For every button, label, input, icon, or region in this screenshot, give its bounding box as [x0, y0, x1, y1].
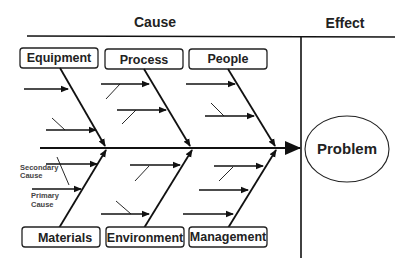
- bone-environment: [144, 150, 192, 228]
- secondary-cause-line: [122, 110, 136, 124]
- category-box-materials: Materials: [22, 227, 100, 247]
- category-box-people: People: [189, 49, 267, 69]
- bone-management: [228, 150, 276, 228]
- category-label: Equipment: [27, 51, 92, 65]
- secondary-cause-line: [106, 84, 120, 99]
- secondary-cause-line: [211, 103, 224, 116]
- bone-equipment: [60, 68, 105, 146]
- category-box-management: Management: [189, 227, 267, 247]
- header-rule: [27, 36, 395, 37]
- primary-cause-label: Cause: [31, 200, 54, 209]
- bone-process: [144, 69, 190, 146]
- secondary-cause-line: [219, 167, 233, 181]
- primary-cause-label: Primary: [31, 191, 60, 200]
- category-box-environment: Environment: [106, 227, 184, 247]
- category-label: Materials: [38, 231, 92, 245]
- secondary-cause-label: Cause: [20, 171, 43, 180]
- category-box-equipment: Equipment: [20, 48, 98, 68]
- secondary-cause-line: [52, 118, 65, 130]
- secondary-cause-line: [116, 201, 131, 214]
- problem-ellipse: Problem: [305, 116, 389, 182]
- fishbone-diagram: Cause Effect Equipment Process People Se…: [0, 0, 411, 267]
- secondary-cause-line: [135, 166, 149, 181]
- bone-people: [228, 69, 275, 146]
- category-label: Management: [190, 230, 267, 244]
- problem-label: Problem: [317, 140, 377, 157]
- category-label: People: [208, 52, 249, 66]
- effect-header: Effect: [326, 15, 365, 31]
- secondary-cause-line: [57, 157, 69, 185]
- category-box-process: Process: [105, 49, 183, 69]
- category-label: Process: [120, 53, 169, 67]
- cause-header: Cause: [134, 14, 176, 30]
- category-label: Environment: [107, 231, 184, 245]
